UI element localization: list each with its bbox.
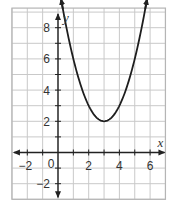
parabola-chart: −20246−22468xy — [0, 0, 175, 215]
x-tick-label: −2 — [18, 159, 32, 173]
y-axis-label: y — [61, 10, 69, 25]
y-tick-label: 2 — [43, 115, 50, 129]
x-tick-label: 2 — [85, 159, 92, 173]
origin-label: 0 — [48, 157, 55, 171]
tick-labels: −20246−22468xy — [18, 10, 163, 191]
x-axis-label: x — [157, 135, 164, 150]
y-tick-label: −2 — [36, 177, 50, 191]
x-tick-label: 4 — [116, 159, 123, 173]
x-tick-label: 6 — [147, 159, 154, 173]
y-tick-label: 4 — [43, 84, 50, 98]
y-tick-label: 8 — [43, 21, 50, 35]
y-tick-label: 6 — [43, 52, 50, 66]
